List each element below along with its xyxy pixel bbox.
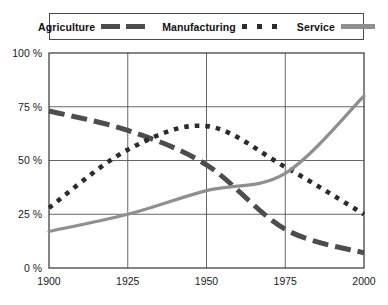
- y-tick-label: 75 %: [18, 101, 42, 113]
- chart-plot-area: 0 %25 %50 %75 %100 % 1900192519501975200…: [0, 0, 388, 305]
- y-tick-label: 50 %: [18, 154, 42, 166]
- y-tick-label: 25 %: [18, 208, 42, 220]
- grid-lines: [49, 53, 364, 268]
- y-axis-tick-labels: 0 %25 %50 %75 %100 %: [12, 47, 42, 274]
- x-tick-label: 1950: [195, 275, 219, 287]
- x-axis-tick-labels: 19001925195019752000: [37, 275, 376, 287]
- x-tick-label: 1925: [116, 275, 140, 287]
- y-tick-label: 0 %: [24, 262, 42, 274]
- x-tick-label: 1900: [37, 275, 61, 287]
- y-tick-label: 100 %: [12, 47, 42, 59]
- x-tick-label: 1975: [274, 275, 298, 287]
- line-chart: Agriculture Manufacturing Service 0 %25 …: [0, 0, 388, 305]
- x-tick-label: 2000: [352, 275, 376, 287]
